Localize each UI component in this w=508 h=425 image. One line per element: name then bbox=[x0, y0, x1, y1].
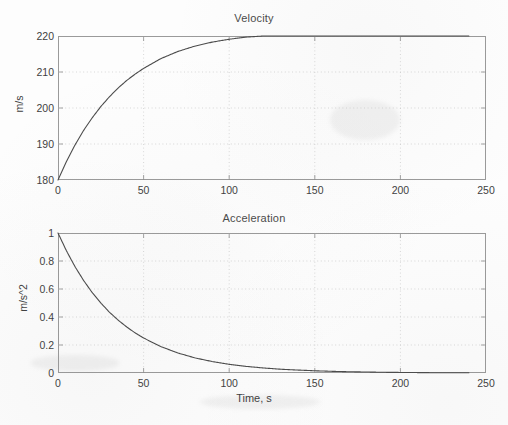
velocity-y-tick: 210 bbox=[12, 66, 54, 78]
velocity-chart: Velocity m/s 180190200210220 05010015020… bbox=[0, 0, 508, 200]
acceleration-x-tick: 200 bbox=[392, 377, 410, 389]
acceleration-gridlines bbox=[58, 233, 486, 373]
velocity-chart-title: Velocity bbox=[0, 12, 508, 24]
acceleration-y-tick: 1 bbox=[12, 227, 54, 239]
velocity-plot-svg bbox=[58, 36, 486, 180]
acceleration-data-curve bbox=[58, 233, 469, 373]
velocity-y-tick: 220 bbox=[12, 30, 54, 42]
velocity-x-tick: 200 bbox=[392, 184, 410, 196]
velocity-x-tick: 150 bbox=[306, 184, 324, 196]
velocity-x-tick: 100 bbox=[220, 184, 238, 196]
acceleration-x-tick: 150 bbox=[306, 377, 324, 389]
acceleration-tickmarks bbox=[58, 233, 486, 373]
velocity-y-tick: 190 bbox=[12, 138, 54, 150]
velocity-gridlines bbox=[58, 36, 486, 180]
velocity-y-tick: 200 bbox=[12, 102, 54, 114]
acceleration-x-tick: 50 bbox=[138, 377, 150, 389]
acceleration-y-tick: 0.6 bbox=[12, 283, 54, 295]
acceleration-y-tick: 0 bbox=[12, 367, 54, 379]
acceleration-x-tick: 0 bbox=[55, 377, 61, 389]
acceleration-y-tick: 0.8 bbox=[12, 255, 54, 267]
acceleration-y-tick: 0.2 bbox=[12, 339, 54, 351]
velocity-x-tick: 50 bbox=[138, 184, 150, 196]
acceleration-chart: Acceleration m/s^2 00.20.40.60.81 050100… bbox=[0, 200, 508, 425]
acceleration-x-axis-label: Time, s bbox=[0, 392, 508, 404]
acceleration-x-tick: 100 bbox=[220, 377, 238, 389]
velocity-y-tick: 180 bbox=[12, 174, 54, 186]
figure-page: Velocity m/s 180190200210220 05010015020… bbox=[0, 0, 508, 425]
acceleration-plot-svg bbox=[58, 233, 486, 373]
acceleration-y-tick: 0.4 bbox=[12, 311, 54, 323]
acceleration-chart-title: Acceleration bbox=[0, 212, 508, 224]
velocity-x-tick: 250 bbox=[477, 184, 495, 196]
velocity-x-tick: 0 bbox=[55, 184, 61, 196]
acceleration-x-tick: 250 bbox=[477, 377, 495, 389]
